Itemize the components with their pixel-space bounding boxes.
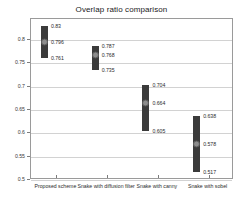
gridline [31,180,232,181]
y-tick-mark [27,179,30,180]
max-value-label: 0.638 [203,113,216,119]
y-tick-label: 0.6 [3,129,25,135]
x-tick-label: Snake with diffusion filter [77,183,134,189]
mean-marker [41,38,48,45]
y-tick-label: 0.8 [3,36,25,42]
max-value-label: 0.83 [51,23,61,29]
mean-value-label: 0.664 [152,100,165,106]
x-tick-mark [158,175,159,178]
chart-title: Overlap ratio comparison [0,5,243,14]
y-tick-label: 0.75 [3,59,25,65]
range-bar[interactable] [142,85,149,131]
bar-group[interactable]: 0.6380.5780.517 [193,19,200,178]
bar-group[interactable]: 0.7870.7680.735 [92,19,99,178]
mean-marker [193,140,200,147]
gridline [31,133,232,134]
mean-value-label: 0.768 [102,52,115,58]
x-tick-mark [56,175,57,178]
y-tick-label: 0.7 [3,83,25,89]
min-value-label: 0.605 [152,128,165,134]
max-value-label: 0.787 [102,43,115,49]
min-value-label: 0.735 [102,67,115,73]
x-tick-label: Proposed scheme [34,183,76,189]
min-value-label: 0.761 [51,55,64,61]
gridline [31,63,232,64]
x-tick-label: Snake with canny [137,183,178,189]
x-tick-mark [107,175,108,178]
y-tick-label: 0.65 [3,106,25,112]
overlap-ratio-chart: Overlap ratio comparison 0.80.750.70.650… [0,0,243,201]
y-tick-label: 0.55 [3,153,25,159]
y-tick-label: 0.5 [3,176,25,182]
gridline [31,87,232,88]
plot-area: 0.830.7960.7610.7870.7680.7350.7040.6640… [30,18,233,179]
max-value-label: 0.704 [152,82,165,88]
bar-group[interactable]: 0.830.7960.761 [41,19,48,178]
mean-value-label: 0.578 [203,141,216,147]
mean-marker [142,100,149,107]
gridline [31,110,232,111]
x-tick-mark [209,175,210,178]
mean-value-label: 0.796 [51,39,64,45]
x-tick-label: Snake with sobel [188,183,227,189]
bar-group[interactable]: 0.7040.6640.605 [142,19,149,178]
gridline [31,157,232,158]
mean-marker [92,51,99,58]
